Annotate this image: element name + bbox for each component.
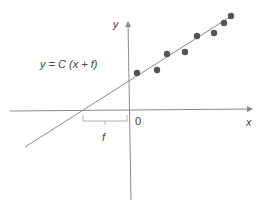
y-axis	[128, 22, 131, 200]
data-point	[221, 20, 227, 26]
fit-line	[25, 15, 233, 147]
data-point	[182, 49, 188, 55]
data-point	[154, 67, 160, 73]
equation-label: y = C (x + f)	[39, 58, 98, 70]
data-points	[134, 13, 234, 76]
f-label: f	[102, 131, 106, 143]
diagram-canvas: y = C (x + f) y x 0 f	[0, 0, 266, 209]
origin-label: 0	[135, 115, 141, 127]
y-axis-label: y	[112, 18, 120, 30]
linear-fit-diagram: y = C (x + f) y x 0 f	[0, 0, 266, 209]
x-axis	[10, 109, 252, 111]
data-point	[211, 30, 217, 36]
data-point	[134, 70, 140, 76]
x-axis-label: x	[245, 116, 252, 128]
data-point	[164, 51, 170, 57]
data-point	[194, 33, 200, 39]
f-bracket	[83, 115, 127, 125]
data-point	[228, 13, 234, 19]
